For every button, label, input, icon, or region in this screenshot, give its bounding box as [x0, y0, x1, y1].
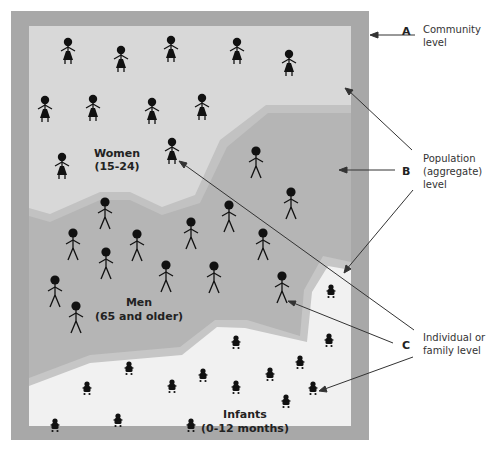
annotation-b-letter: B: [402, 165, 410, 178]
population-levels-diagram: Women (15-24) Men (65 and older) Infants…: [0, 0, 497, 464]
annotation-a-letter: A: [402, 25, 411, 38]
men-label: Men: [126, 296, 152, 309]
annotation-c-letter: C: [402, 339, 410, 352]
annotation-c-line1: Individual or: [423, 332, 486, 343]
annotation-a-line1: Community: [423, 24, 481, 35]
infants-label: Infants: [223, 408, 267, 421]
annotation-c-line2: family level: [423, 345, 481, 356]
annotation-b-line1: Population: [423, 153, 476, 164]
arrowhead-icon: [370, 32, 378, 38]
annotation-b-line2: (aggregate): [423, 166, 482, 177]
infants-age-label: (0-12 months): [201, 422, 289, 435]
annotation-b-line3: level: [423, 179, 447, 190]
men-age-label: (65 and older): [95, 310, 183, 323]
women-age-label: (15-24): [94, 160, 139, 173]
women-label: Women: [94, 147, 140, 160]
annotation-a-line2: level: [423, 37, 447, 48]
